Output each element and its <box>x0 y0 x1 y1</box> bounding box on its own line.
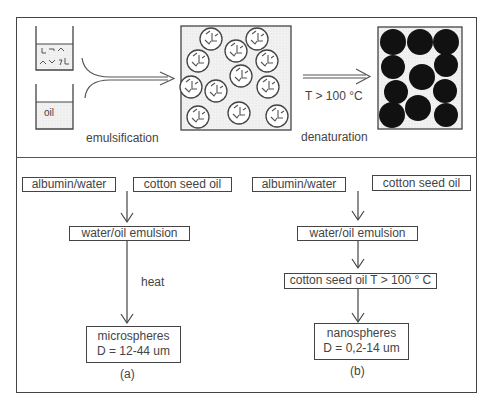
beaker-water-icon <box>36 26 73 70</box>
flow-a-input-albumin-water: albumin/water <box>22 177 116 192</box>
flow-a-result-box: microspheres D = 12-44 um <box>86 326 181 363</box>
flow-a-result-size: D = 12-44 um <box>87 344 180 359</box>
flow-b-arrows <box>352 191 364 322</box>
denaturation-label: denaturation <box>301 130 368 144</box>
flow-a-caption: (a) <box>120 367 135 381</box>
flow-b-result-box: nanospheres D = 0,2-14 um <box>314 323 409 360</box>
denaturation-arrow <box>303 69 370 84</box>
flow-b-process-box: cotton seed oil T > 100 ° C <box>284 273 437 289</box>
diagram-graphics <box>0 0 491 407</box>
flow-b-caption: (b) <box>350 364 365 378</box>
emulsification-arrow <box>82 58 174 98</box>
flow-b-input-cotton-seed-oil: cotton seed oil <box>372 175 471 191</box>
flow-b-result-name: nanospheres <box>315 326 408 341</box>
flow-a-result-name: microspheres <box>87 329 180 344</box>
emulsification-label: emulsification <box>86 131 159 145</box>
beaker-oil-icon <box>36 84 73 129</box>
flow-a-arrows <box>121 191 133 323</box>
flow-b-result-size: D = 0,2-14 um <box>315 341 408 356</box>
flow-a-heat-label: heat <box>141 275 164 289</box>
flow-b-emulsion-box: water/oil emulsion <box>297 226 418 241</box>
flow-a-emulsion-box: water/oil emulsion <box>69 226 190 241</box>
temperature-condition-label: T > 100 °C <box>305 89 363 103</box>
beaker-oil-label: oil <box>44 107 54 118</box>
flow-b-input-albumin-water: albumin/water <box>252 177 346 192</box>
flow-a-input-cotton-seed-oil: cotton seed oil <box>133 177 232 192</box>
